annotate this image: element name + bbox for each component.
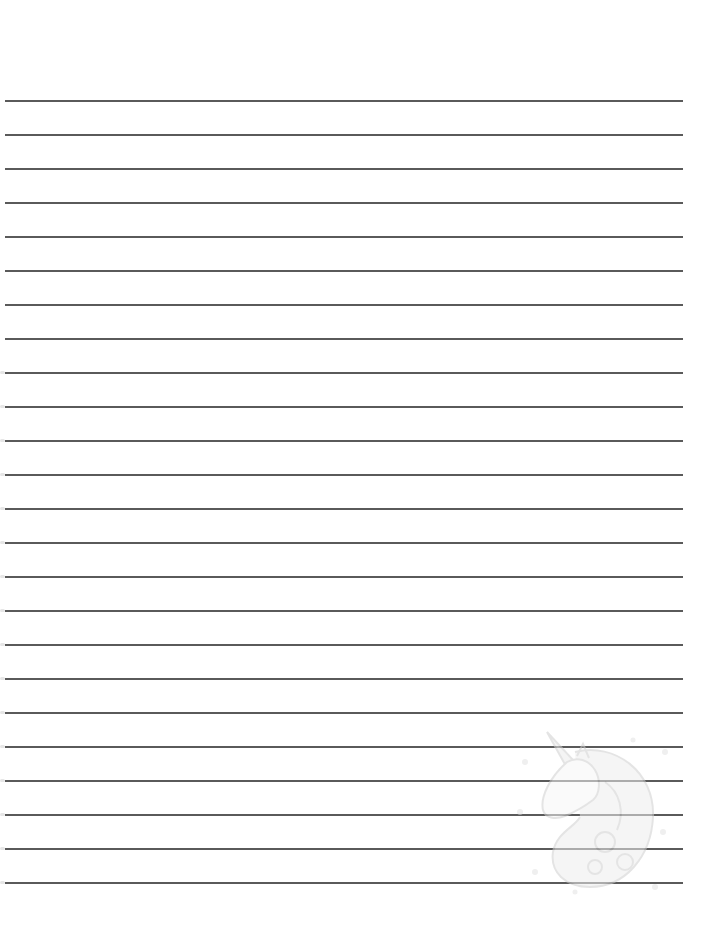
ruled-line: [5, 406, 683, 408]
margin-mark: [0, 677, 5, 680]
ruled-line: [5, 440, 683, 442]
ruled-line: [5, 474, 683, 476]
ruled-line: [5, 168, 683, 170]
ruled-line: [5, 848, 683, 850]
ruled-line: [5, 576, 683, 578]
margin-mark: [0, 371, 5, 374]
margin-mark: [0, 643, 5, 646]
ruled-line: [5, 780, 683, 782]
ruled-line: [5, 746, 683, 748]
ruled-line: [5, 100, 683, 102]
ruled-line: [5, 610, 683, 612]
ruled-line: [5, 678, 683, 680]
ruled-line: [5, 508, 683, 510]
ruled-line: [5, 202, 683, 204]
margin-mark: [0, 541, 5, 544]
ruled-line: [5, 236, 683, 238]
margin-mark: [0, 745, 5, 748]
margin-mark: [0, 507, 5, 510]
margin-mark: [0, 881, 5, 884]
ruled-line: [5, 304, 683, 306]
margin-mark: [0, 813, 5, 816]
lined-paper-page: [0, 0, 720, 925]
ruled-line: [5, 712, 683, 714]
ruled-line: [5, 814, 683, 816]
margin-mark: [0, 779, 5, 782]
margin-mark: [0, 473, 5, 476]
margin-mark: [0, 575, 5, 578]
ruled-line: [5, 270, 683, 272]
margin-mark: [0, 711, 5, 714]
margin-mark: [0, 439, 5, 442]
margin-mark: [0, 847, 5, 850]
ruled-line: [5, 882, 683, 884]
ruled-line: [5, 134, 683, 136]
margin-mark: [0, 609, 5, 612]
ruled-line: [5, 542, 683, 544]
ruled-line: [5, 338, 683, 340]
margin-mark: [0, 405, 5, 408]
unicorn-head-icon: [505, 722, 675, 897]
ruled-line: [5, 372, 683, 374]
ruled-line: [5, 644, 683, 646]
